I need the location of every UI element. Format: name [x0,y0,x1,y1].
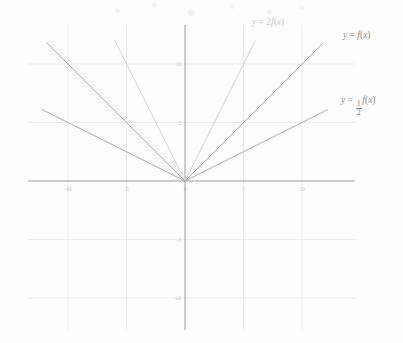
svg-text:-10: -10 [65,186,72,192]
coordinate-plane: -10-50510105-5-10 [0,0,403,343]
svg-text:5: 5 [242,186,245,192]
svg-text:0: 0 [184,186,187,192]
svg-text:5: 5 [178,120,181,126]
svg-text:10: 10 [176,61,182,67]
svg-text:-10: -10 [174,295,181,301]
svg-text:-5: -5 [124,186,129,192]
curve-label-2fx: y = 2f(x) [252,17,284,27]
graph-figure: -10-50510105-5-10 y = 2f(x) y = f(x) y =… [0,0,403,343]
svg-text:10: 10 [299,186,305,192]
curve-label-fx: y = f(x) [343,30,371,40]
svg-text:-5: -5 [177,237,182,243]
curve-label-half-fx: y = 12f(x) [341,95,376,117]
